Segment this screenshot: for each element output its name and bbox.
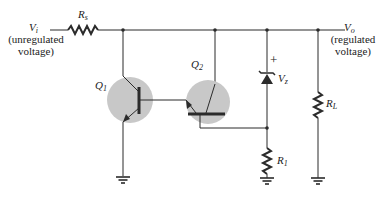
zener-diode-icon [261,74,273,84]
circuit-diagram [0,0,381,198]
junction-dot [265,28,269,32]
vi-note-line2: voltage) [7,45,65,57]
vi-note-line1: (unregulated [7,33,65,45]
vo-note-line2: voltage) [326,45,380,57]
junction-dot [121,28,125,32]
rl-resistor [314,92,322,118]
junction-dot [213,28,217,32]
rs-resistor [68,26,98,34]
q2-label: Q2 [191,58,203,74]
r1-resistor [263,148,271,174]
q1-label: Q1 [95,79,107,95]
vz-label: Vz [278,72,288,88]
ground-icon [116,177,130,183]
q2-transistor-body [186,80,230,124]
vo-note-line1: (regulated [326,33,380,45]
rs-label: Rs [78,8,88,24]
rl-label: RL [326,97,337,113]
junction-dot [265,126,269,130]
vz-plus-sign: + [270,54,277,66]
r1-label: R1 [277,154,288,170]
junction-dot [316,28,320,32]
ground-icon [260,178,274,184]
ground-icon [311,178,325,184]
